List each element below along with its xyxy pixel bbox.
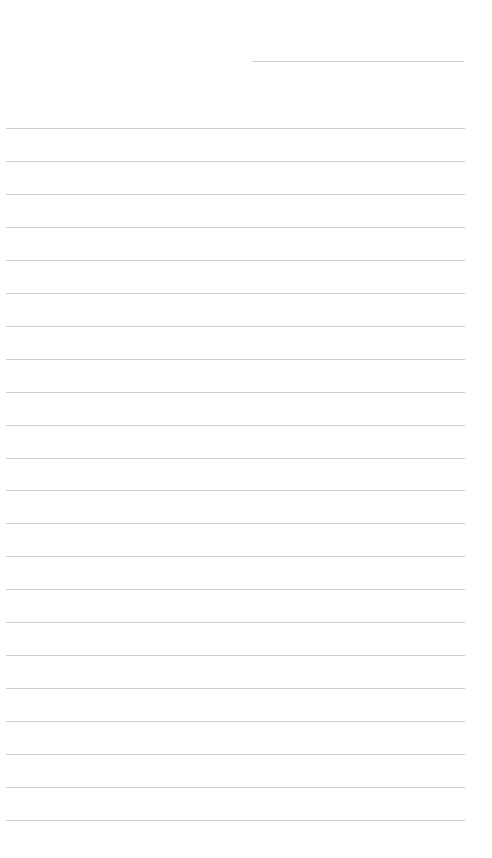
ruled-line: [6, 128, 465, 129]
ruled-line: [6, 787, 465, 788]
ruled-line: [6, 622, 465, 623]
ruled-line: [6, 392, 465, 393]
ruled-line: [6, 820, 465, 821]
ruled-line: [6, 293, 465, 294]
ruled-line: [6, 458, 465, 459]
ruled-line: [6, 589, 465, 590]
ruled-line: [6, 326, 465, 327]
ruled-line: [6, 425, 465, 426]
ruled-line: [6, 227, 465, 228]
ruled-line: [6, 688, 465, 689]
notebook-page: [0, 0, 492, 858]
ruled-line: [6, 260, 465, 261]
ruled-line: [6, 490, 465, 491]
ruled-line: [6, 655, 465, 656]
ruled-line: [6, 721, 465, 722]
ruled-line: [6, 194, 465, 195]
ruled-line: [6, 754, 465, 755]
ruled-line: [6, 359, 465, 360]
date-line: [252, 61, 464, 62]
ruled-line: [6, 523, 465, 524]
ruled-line: [6, 161, 465, 162]
ruled-line: [6, 556, 465, 557]
